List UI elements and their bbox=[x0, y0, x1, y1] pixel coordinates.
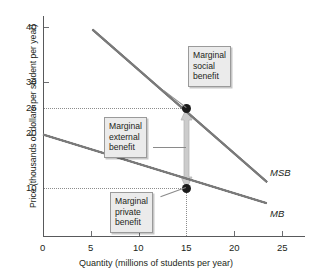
y-axis-line bbox=[43, 16, 44, 237]
x-tick-label-0: 0 bbox=[40, 242, 45, 253]
y-tick-label-25: 25 bbox=[26, 102, 37, 113]
y-tick-30 bbox=[44, 82, 49, 83]
callout-private-line-2: private bbox=[115, 207, 148, 218]
msb-curve-label: MSB bbox=[270, 167, 291, 178]
callout-social-line-3: benefit bbox=[193, 71, 226, 82]
callout-marginal-private-benefit: Marginal private benefit bbox=[110, 192, 153, 233]
x-tick-5 bbox=[91, 231, 92, 236]
x-tick-20 bbox=[234, 231, 235, 236]
economics-chart: Price (thousands of dollars per student … bbox=[0, 0, 311, 275]
x-axis-label: Quantity (millions of students per year) bbox=[79, 258, 233, 268]
leader-external-benefit bbox=[153, 147, 186, 148]
callout-external-line-1: Marginal bbox=[109, 121, 142, 132]
mb-curve-label: MB bbox=[270, 208, 284, 219]
mb-curve bbox=[42, 133, 268, 205]
x-tick-25 bbox=[282, 231, 283, 236]
callout-private-line-1: Marginal bbox=[115, 196, 148, 207]
y-tick-label-10: 10 bbox=[26, 182, 37, 193]
x-tick-label-10: 10 bbox=[133, 242, 144, 253]
y-tick-label-40: 40 bbox=[26, 21, 37, 32]
callout-social-line-1: Marginal bbox=[193, 50, 226, 61]
x-tick-label-5: 5 bbox=[88, 242, 93, 253]
reference-line-price-25 bbox=[44, 108, 187, 109]
callout-private-line-3: benefit bbox=[115, 217, 148, 228]
y-tick-40 bbox=[44, 27, 49, 28]
y-tick-label-30: 30 bbox=[26, 76, 37, 87]
callout-marginal-social-benefit: Marginal social benefit bbox=[188, 46, 231, 87]
x-tick-label-25: 25 bbox=[277, 242, 288, 253]
x-tick-label-15: 15 bbox=[181, 242, 192, 253]
x-axis-line bbox=[43, 236, 305, 237]
reference-line-price-10 bbox=[44, 188, 187, 189]
callout-external-line-3: benefit bbox=[109, 142, 142, 153]
y-tick-label-20: 20 bbox=[26, 127, 37, 138]
callout-social-line-2: social bbox=[193, 61, 226, 72]
x-tick-label-20: 20 bbox=[229, 242, 240, 253]
callout-marginal-external-benefit: Marginal external benefit bbox=[104, 117, 147, 158]
leader-social-benefit bbox=[163, 90, 187, 108]
callout-external-line-2: external bbox=[109, 132, 142, 143]
